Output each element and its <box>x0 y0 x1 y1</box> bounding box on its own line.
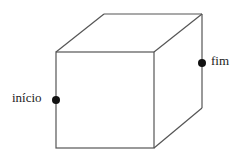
end-point <box>198 59 206 67</box>
end-label: fim <box>211 53 229 68</box>
front-face <box>56 52 154 148</box>
edge-bottom-right <box>154 108 202 148</box>
start-point <box>52 96 60 104</box>
start-label: início <box>12 90 42 105</box>
edge-top-right <box>154 14 202 52</box>
cube-diagram: início fim <box>0 0 243 157</box>
cube-edges <box>56 14 202 148</box>
edge-top-left <box>56 14 104 52</box>
